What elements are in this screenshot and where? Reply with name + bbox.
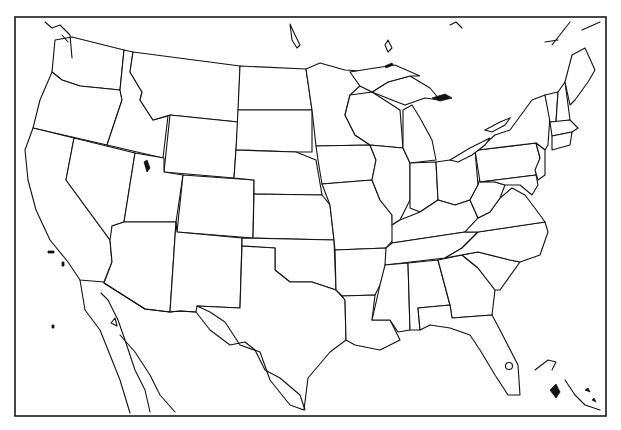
state-south-dakota: [236, 110, 312, 152]
state-wyoming: [164, 115, 238, 178]
canada-coast-ne: [545, 22, 600, 45]
state-iowa: [316, 145, 376, 184]
bahamas: [550, 384, 596, 402]
lake-okeechobee: [506, 363, 513, 370]
us-outline-map: [0, 0, 621, 430]
pacific-islands: [48, 251, 64, 328]
cuba-coast: [535, 360, 600, 410]
state-north-dakota: [238, 66, 312, 110]
lake-ontario: [485, 118, 510, 132]
state-michigan: [403, 105, 436, 163]
lake-chapala: [111, 318, 117, 326]
state-arizona: [104, 222, 176, 312]
state-maine: [565, 48, 595, 105]
state-florida: [418, 305, 520, 395]
state-colorado: [177, 175, 254, 238]
state-kansas: [253, 194, 334, 240]
hudson-bay-tip: [450, 22, 462, 28]
lake-nipigon: [385, 40, 392, 52]
state-new-york: [478, 95, 550, 150]
lake-winnipeg-fragment: [290, 24, 300, 48]
